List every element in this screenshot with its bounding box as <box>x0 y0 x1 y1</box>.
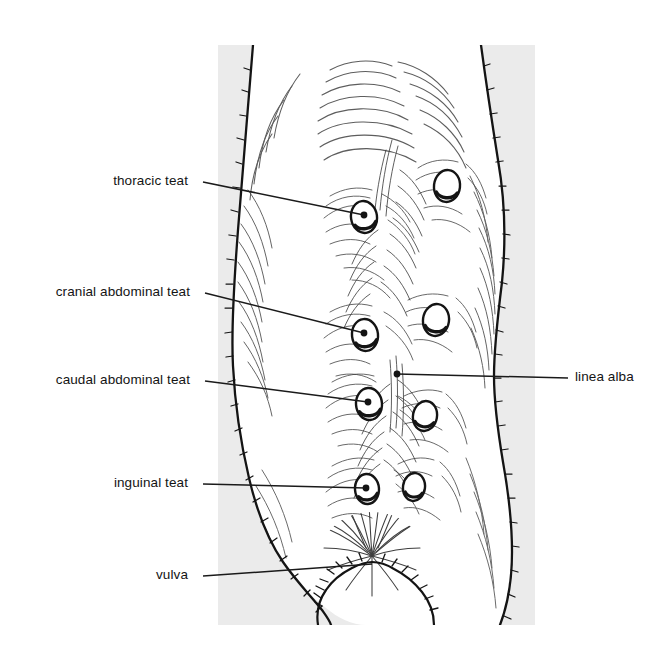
anatomy-figure: thoracic teat cranial abdominal teat cau… <box>0 0 672 670</box>
label-linea-alba: linea alba <box>575 370 634 384</box>
label-cranial-abdominal-teat: cranial abdominal teat <box>56 285 190 299</box>
label-thoracic-teat-text: thoracic teat <box>113 173 188 188</box>
label-caudal-abdominal-teat-text: caudal abdominal teat <box>56 372 190 387</box>
leader-dot-caudal-abdominal-teat <box>365 399 372 406</box>
label-thoracic-teat: thoracic teat <box>113 174 188 188</box>
label-vulva: vulva <box>156 568 188 582</box>
leader-dot-linea-alba <box>394 371 401 378</box>
leader-dot-inguinal-teat <box>363 485 370 492</box>
figure-illustration <box>0 0 672 670</box>
label-linea-alba-text: linea alba <box>575 369 634 384</box>
label-cranial-abdominal-teat-text: cranial abdominal teat <box>56 284 190 299</box>
leader-dot-thoracic-teat <box>361 212 368 219</box>
label-inguinal-teat: inguinal teat <box>114 476 188 490</box>
label-caudal-abdominal-teat: caudal abdominal teat <box>56 373 190 387</box>
leader-dot-cranial-abdominal-teat <box>361 330 368 337</box>
label-inguinal-teat-text: inguinal teat <box>114 475 188 490</box>
label-vulva-text: vulva <box>156 567 188 582</box>
